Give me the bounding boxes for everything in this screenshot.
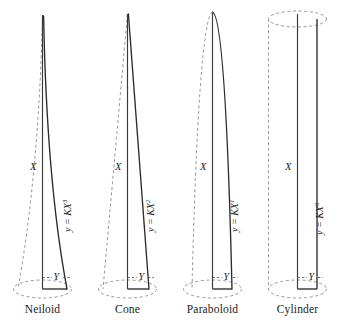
neiloid-diagram	[0, 0, 85, 300]
equation-label: y = KX0	[314, 203, 325, 235]
equation-base: y = KX	[314, 206, 325, 235]
equation-exponent: 3	[61, 200, 68, 203]
equation-exponent: 2	[144, 200, 151, 203]
front-profile-solid	[213, 12, 233, 289]
equation-label: y = KX1	[229, 200, 240, 232]
axis-label-x: X	[115, 161, 121, 172]
shape-panel-neiloid: X y = KX3 Y Neiloid	[0, 0, 85, 324]
axis-label-x: X	[200, 161, 206, 172]
back-profile-dashed	[192, 12, 213, 289]
back-profile-dashed	[103, 14, 128, 289]
shape-name-cone: Cone	[85, 303, 170, 315]
shape-name-neiloid: Neiloid	[0, 303, 85, 315]
equation-base: y = KX	[229, 203, 240, 232]
equation-label: y = KX3	[62, 200, 73, 232]
axis-label-x: X	[285, 161, 291, 172]
front-profile-solid	[128, 14, 149, 289]
radius-label-y: Y	[224, 271, 230, 282]
equation-base: y = KX	[62, 203, 73, 232]
equation-exponent: 1	[228, 200, 235, 203]
axis-label-x: X	[30, 161, 36, 172]
shape-panel-cylinder: X y = KX0 Y Cylinder	[255, 0, 340, 324]
paraboloid-diagram	[170, 0, 255, 300]
equation-label: y = KX2	[145, 200, 156, 232]
solids-of-revolution-figure: X y = KX3 Y Neiloid X y = KX2 Y Cone	[0, 0, 342, 324]
radius-label-y: Y	[139, 271, 145, 282]
cylinder-diagram	[255, 0, 340, 300]
equation-exponent: 0	[313, 203, 320, 206]
cone-diagram	[85, 0, 170, 300]
radius-label-y: Y	[54, 271, 60, 282]
radius-label-y: Y	[309, 271, 315, 282]
shape-panel-paraboloid: X y = KX1 Y Paraboloid	[170, 0, 255, 324]
front-profile-solid	[44, 16, 67, 289]
shape-name-cylinder: Cylinder	[255, 303, 340, 315]
shape-panel-cone: X y = KX2 Y Cone	[85, 0, 170, 324]
equation-base: y = KX	[145, 203, 156, 232]
shape-name-paraboloid: Paraboloid	[170, 303, 255, 315]
back-profile-dashed	[18, 16, 43, 289]
